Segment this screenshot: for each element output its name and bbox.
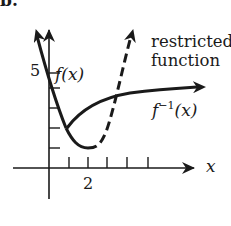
f-label: f(x) [55,66,84,83]
restricted-label-line1: restricted [151,32,231,51]
restricted-label-line2: function [151,51,231,70]
f-label-arg: (x) [61,64,84,84]
x-ticks [69,157,148,168]
f-inverse-label-sup: −1 [158,99,174,112]
f-inverse-label: f−1(x) [152,100,197,119]
y-tick-label-5: 5 [30,63,40,79]
f-inverse-label-arg: (x) [175,100,198,120]
inverse-function-graph: b. 5 2 x f(x) f−1(x) restricted function [0,0,231,226]
f-curve-lower [66,128,88,148]
x-tick-label-2: 2 [83,176,93,192]
part-label: b. [0,0,18,9]
restricted-function-curve [88,36,131,148]
x-axis-label: x [206,158,216,175]
restricted-function-label: restricted function [151,32,231,70]
